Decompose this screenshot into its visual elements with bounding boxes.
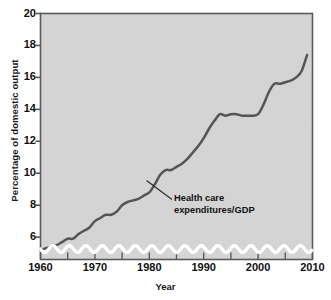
x-tick-label: 1980 xyxy=(129,262,169,273)
series-annotation-label: Health care expenditures/GDP xyxy=(174,193,255,217)
line-chart-canvas xyxy=(0,0,331,300)
x-tick-label: 1970 xyxy=(75,262,115,273)
x-tick-label: 1960 xyxy=(21,262,61,273)
x-tick-label: 2000 xyxy=(238,262,278,273)
x-axis-title: Year xyxy=(0,281,331,292)
chart-figure: 20181614121086 Percentage of domestic ou… xyxy=(0,0,331,300)
annotation-line-2: expenditures/GDP xyxy=(174,205,255,217)
y-tick-label: 6 xyxy=(8,231,36,242)
y-tick-label: 20 xyxy=(8,8,36,19)
x-tick-label: 1990 xyxy=(184,262,224,273)
y-axis-title: Percentage of domestic output xyxy=(9,31,20,231)
x-tick-label: 2010 xyxy=(293,262,331,273)
annotation-line-1: Health care xyxy=(174,193,255,205)
